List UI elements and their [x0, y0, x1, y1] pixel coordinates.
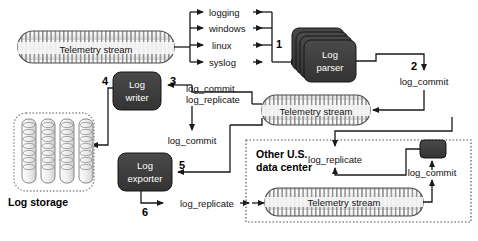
- log-storage-label: Log storage: [8, 196, 68, 208]
- disk-column-1: [22, 119, 36, 183]
- log-writer-label-line1: Log: [129, 79, 145, 90]
- telemetry-stream-middle: Telemetry stream: [262, 95, 370, 125]
- step-number-5: 5: [179, 159, 185, 171]
- log-parser-label-line2: parser: [317, 62, 344, 73]
- datacenter-label-line2: data center: [256, 161, 312, 173]
- edge-label-log-commit-writer: log_commit: [186, 83, 235, 94]
- step-number-3: 3: [170, 75, 176, 87]
- step-number-1: 1: [276, 38, 282, 50]
- log-writer-label-line2: writer: [124, 92, 148, 103]
- telemetry-stream-datacenter-label: Telemetry stream: [308, 197, 381, 208]
- log-storage-node: Log storage: [8, 113, 94, 208]
- datacenter-label-line1: Other U.S.: [256, 148, 307, 160]
- source-label-logging: logging: [209, 7, 240, 18]
- log-parser-node: Log parser: [292, 28, 356, 82]
- disk-column-4: [79, 119, 93, 183]
- telemetry-pipeline-diagram: Telemetry stream logging windows linux s…: [0, 0, 478, 241]
- source-label-windows: windows: [208, 23, 246, 34]
- disk-column-2: [41, 119, 55, 183]
- telemetry-stream-main: Telemetry stream: [18, 31, 174, 63]
- writer-to-storage-edge: [92, 88, 113, 145]
- edge-label-log-commit-midstream: log_commit: [400, 76, 449, 87]
- log-parser-label-line1: Log: [322, 49, 338, 60]
- edge-label-log-commit-exporter: log_commit: [168, 135, 217, 146]
- log-exporter-label-line1: Log: [137, 160, 153, 171]
- log-exporter-label-line2: exporter: [128, 173, 163, 184]
- telemetry-stream-middle-label: Telemetry stream: [280, 106, 353, 117]
- edge-label-log-replicate-writer: log_replicate: [186, 94, 240, 105]
- telemetry-stream-datacenter: Telemetry stream: [265, 188, 423, 216]
- sources-to-parser-edges: [253, 12, 297, 62]
- step-number-4: 4: [102, 75, 109, 87]
- commit-into-midstream-edge: [373, 90, 424, 110]
- step-number-2: 2: [411, 60, 417, 72]
- disk-column-3: [60, 119, 74, 183]
- log-exporter-node: Log exporter: [118, 153, 172, 191]
- telemetry-stream-main-label: Telemetry stream: [60, 44, 133, 55]
- source-label-linux: linux: [212, 40, 232, 51]
- datacenter-processor-node: [420, 140, 446, 158]
- step-number-6: 6: [142, 206, 148, 218]
- edge-label-log-replicate-out: log_replicate: [180, 198, 234, 209]
- stream-to-sources-edges: [174, 12, 203, 62]
- exporter-to-datacenter-edge: [141, 191, 163, 203]
- log-writer-node: Log writer: [113, 72, 161, 110]
- source-label-syslog: syslog: [209, 57, 236, 68]
- edge-label-log-replicate-dc: log_replicate: [308, 154, 362, 165]
- dc-commit-edge: [423, 180, 432, 202]
